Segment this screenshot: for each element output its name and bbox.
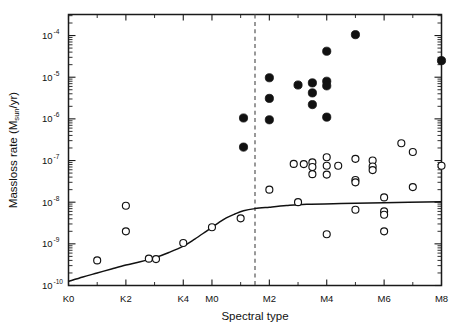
data-point-filled <box>294 81 302 89</box>
data-point-filled <box>308 101 316 109</box>
data-point-open <box>145 255 152 262</box>
data-point-open <box>409 184 416 191</box>
data-point-open <box>335 162 342 169</box>
svg-text:-5: -5 <box>54 70 60 77</box>
data-point-open <box>352 179 359 186</box>
data-point-filled <box>265 94 273 102</box>
x-tick-label: M0 <box>205 293 218 304</box>
svg-text:-8: -8 <box>54 195 60 202</box>
svg-text:10: 10 <box>42 197 53 208</box>
data-point-open <box>352 155 359 162</box>
data-point-open <box>290 160 297 167</box>
data-point-filled <box>351 31 359 39</box>
svg-text:-6: -6 <box>54 111 60 118</box>
svg-text:10: 10 <box>42 238 53 249</box>
svg-text:10: 10 <box>42 280 53 291</box>
svg-text:-7: -7 <box>54 153 60 160</box>
data-point-filled <box>265 116 273 124</box>
data-point-open <box>122 228 129 235</box>
data-point-open <box>323 171 330 178</box>
x-tick-label: M2 <box>263 293 276 304</box>
data-point-open <box>122 202 129 209</box>
data-point-open <box>180 239 187 246</box>
data-point-filled <box>437 57 445 65</box>
data-point-open <box>352 206 359 213</box>
svg-text:10: 10 <box>42 72 53 83</box>
x-tick-label: K0 <box>63 293 75 304</box>
x-tick-label: K2 <box>120 293 132 304</box>
data-point-filled <box>239 143 247 151</box>
svg-text:-9: -9 <box>54 236 60 243</box>
scatter-plot: 10-410-510-610-710-810-910-10K0K2K4M0M2M… <box>0 0 453 332</box>
data-point-open <box>323 154 330 161</box>
svg-text:-10: -10 <box>54 278 64 285</box>
data-point-open <box>309 163 316 170</box>
data-point-open <box>300 161 307 168</box>
data-point-open <box>309 171 316 178</box>
data-point-filled <box>323 82 331 90</box>
x-tick-label: M6 <box>378 293 391 304</box>
data-point-open <box>381 228 388 235</box>
x-axis-title: Spectral type <box>221 310 288 322</box>
data-point-open <box>323 231 330 238</box>
data-point-open <box>237 215 244 222</box>
svg-text:-4: -4 <box>54 28 60 35</box>
svg-text:10: 10 <box>42 30 53 41</box>
x-tick-label: M8 <box>435 293 448 304</box>
svg-text:10: 10 <box>42 155 53 166</box>
data-point-open <box>266 186 273 193</box>
data-point-filled <box>308 79 316 87</box>
x-tick-label: K4 <box>177 293 189 304</box>
data-point-filled <box>239 114 247 122</box>
svg-text:10: 10 <box>42 113 53 124</box>
data-point-open <box>153 256 160 263</box>
x-tick-label: M4 <box>320 293 333 304</box>
data-point-open <box>381 194 388 201</box>
data-point-filled <box>323 113 331 121</box>
data-point-open <box>398 140 405 147</box>
data-point-open <box>369 167 376 174</box>
data-point-filled <box>308 89 316 97</box>
data-point-open <box>94 257 101 264</box>
data-point-open <box>438 162 445 169</box>
data-point-open <box>208 224 215 231</box>
chart-figure: 10-410-510-610-710-810-910-10K0K2K4M0M2M… <box>0 0 453 332</box>
data-point-open <box>409 149 416 156</box>
data-point-open <box>295 199 302 206</box>
data-point-filled <box>323 47 331 55</box>
data-point-open <box>381 211 388 218</box>
data-point-filled <box>265 74 273 82</box>
data-point-open <box>323 162 330 169</box>
